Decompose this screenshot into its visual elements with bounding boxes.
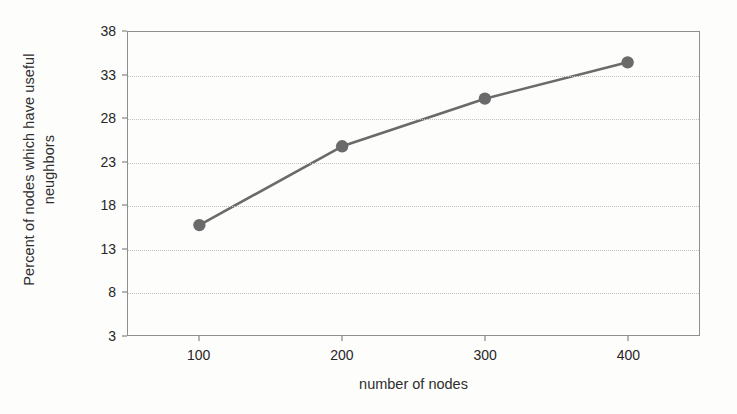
- data-point-marker: [336, 140, 348, 152]
- x-axis-title: number of nodes: [127, 376, 700, 392]
- x-axis-tick-mark: [341, 336, 342, 341]
- gridline-horizontal: [128, 293, 699, 294]
- y-axis-tick-labels: 38332823181383: [78, 31, 122, 336]
- x-axis-tick-label: 300: [473, 347, 496, 363]
- y-axis-tick-mark: [122, 118, 127, 119]
- series-line-and-markers: [128, 32, 699, 335]
- y-axis-tick-mark: [122, 161, 127, 162]
- series-line: [199, 62, 627, 225]
- data-point-marker: [479, 93, 491, 105]
- gridline-horizontal: [128, 206, 699, 207]
- y-axis-tick-mark: [122, 336, 127, 337]
- data-point-marker: [621, 56, 633, 68]
- gridline-horizontal: [128, 163, 699, 164]
- y-axis-tick-label: 8: [108, 284, 116, 300]
- y-axis-tick-mark: [122, 205, 127, 206]
- y-axis-title-line-1: Percent of nodes which have useful: [19, 54, 39, 286]
- x-axis-tick-label: 400: [617, 347, 640, 363]
- x-axis-tick-label: 100: [187, 347, 210, 363]
- y-axis-tick-label: 3: [108, 328, 116, 344]
- y-axis-title-text: Percent of nodes which have useful neugh…: [19, 54, 58, 286]
- x-axis-tick-label: 200: [330, 347, 353, 363]
- y-axis-tick-mark: [122, 31, 127, 32]
- y-axis-title-line-2: neughbors: [39, 54, 59, 286]
- y-axis-tick-label: 28: [100, 110, 116, 126]
- gridline-horizontal: [128, 76, 699, 77]
- y-axis-tick-mark: [122, 248, 127, 249]
- chart-figure: Percent of nodes which have useful neugh…: [0, 0, 737, 414]
- y-axis-tick-label: 38: [100, 23, 116, 39]
- y-axis-tick-label: 13: [100, 241, 116, 257]
- x-axis-tick-mark: [628, 336, 629, 341]
- x-axis-tick-mark: [485, 336, 486, 341]
- y-axis-tick-label: 23: [100, 154, 116, 170]
- data-point-marker: [193, 219, 205, 231]
- y-axis-tick-mark: [122, 292, 127, 293]
- plot-area: [127, 31, 700, 336]
- y-axis-tick-mark: [122, 74, 127, 75]
- gridline-horizontal: [128, 250, 699, 251]
- y-axis-tick-label: 18: [100, 197, 116, 213]
- y-axis-tick-label: 33: [100, 67, 116, 83]
- gridline-horizontal: [128, 119, 699, 120]
- y-axis-title: Percent of nodes which have useful neugh…: [0, 0, 78, 340]
- x-axis-tick-mark: [198, 336, 199, 341]
